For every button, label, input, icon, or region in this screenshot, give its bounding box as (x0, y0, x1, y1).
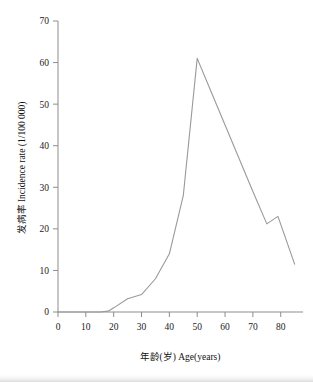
y-axis-tick-label: 40 (40, 141, 50, 151)
y-axis-tick-label: 60 (40, 58, 50, 68)
y-axis-tick-label: 30 (40, 183, 50, 193)
x-axis-tick-label: 40 (165, 322, 175, 332)
axes-group (53, 21, 303, 317)
y-axis-tick-label: 20 (40, 224, 50, 234)
incidence-rate-series-line (58, 58, 295, 312)
y-axis-title: 发病率 Incidence rate (1/100 000) (16, 102, 28, 235)
x-axis-tick-label: 0 (56, 322, 61, 332)
y-axis-ticks (53, 21, 58, 312)
y-axis-tick-label: 10 (40, 266, 50, 276)
incidence-rate-line-chart: 010203040506070 01020304050607080 年龄(岁) … (0, 0, 313, 382)
x-axis-tick-label: 80 (276, 322, 286, 332)
x-axis-tick-labels: 01020304050607080 (56, 322, 286, 332)
x-axis-tick-label: 30 (137, 322, 147, 332)
x-axis-tick-label: 60 (220, 322, 230, 332)
x-axis-title: 年龄(岁) Age(years) (140, 351, 221, 363)
y-axis-tick-label: 70 (40, 16, 50, 26)
x-axis-ticks (58, 312, 281, 317)
y-axis-tick-label: 0 (44, 307, 49, 317)
y-axis-tick-labels: 010203040506070 (40, 16, 50, 317)
x-axis-tick-label: 50 (192, 322, 202, 332)
series-group (58, 58, 295, 312)
x-axis-tick-label: 20 (109, 322, 119, 332)
x-axis-tick-label: 10 (81, 322, 91, 332)
x-axis-tick-label: 70 (248, 322, 258, 332)
y-axis-tick-label: 50 (40, 100, 50, 110)
